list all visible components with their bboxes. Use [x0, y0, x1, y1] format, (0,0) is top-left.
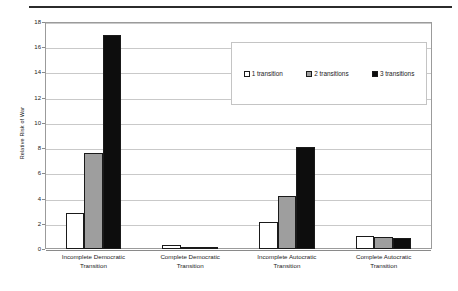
legend-item-2: 2 transitions	[306, 70, 348, 77]
y-tick-label-18: 18	[15, 19, 41, 25]
y-tick-label-14: 14	[15, 69, 41, 75]
gridline-8	[46, 149, 431, 150]
white-square-icon	[244, 71, 250, 77]
chart-legend: 1 transition2 transitions3 transitions	[231, 42, 427, 105]
x-axis-label-1: Incomplete DemocraticTransition	[45, 253, 142, 287]
x-axis-label-1-line-1: Incomplete Democratic	[45, 253, 142, 262]
x-axis-label-3: Incomplete AutocraticTransition	[239, 253, 336, 287]
x-axis-label-4: Complete AutocraticTransition	[335, 253, 432, 287]
y-tick-label-12: 12	[15, 95, 41, 101]
x-axis-label-2: Complete DemocraticTransition	[142, 253, 239, 287]
gridline-4	[46, 200, 431, 201]
legend-label-3: 3 transitions	[380, 70, 414, 77]
bar-chart-figure: Relative Risk of War 024681012141618 1 t…	[0, 0, 458, 291]
legend-item-3: 3 transitions	[372, 70, 414, 77]
y-tick-label-0: 0	[15, 246, 41, 252]
x-axis-label-3-line-1: Incomplete Autocratic	[239, 253, 336, 262]
gridline-10	[46, 124, 431, 125]
y-axis-ticks: 024681012141618	[13, 22, 41, 249]
x-axis-label-2-line-2: Transition	[142, 262, 239, 271]
gridline-2	[46, 225, 431, 226]
y-tick-label-6: 6	[15, 170, 41, 176]
y-tick-label-16: 16	[15, 44, 41, 50]
y-tick-mark-0	[42, 249, 45, 250]
legend-label-2: 2 transitions	[314, 70, 348, 77]
gridline-6	[46, 174, 431, 175]
y-tick-label-2: 2	[15, 221, 41, 227]
legend-label-1: 1 transition	[252, 70, 283, 77]
top-horizontal-rule	[29, 6, 452, 8]
x-axis-label-4-line-1: Complete Autocratic	[335, 253, 432, 262]
gridline-0	[46, 250, 431, 251]
x-axis-label-3-line-2: Transition	[239, 262, 336, 271]
x-axis-label-4-line-2: Transition	[335, 262, 432, 271]
y-tick-label-10: 10	[15, 120, 41, 126]
y-tick-label-4: 4	[15, 196, 41, 202]
y-tick-label-8: 8	[15, 145, 41, 151]
gridline-18	[46, 23, 431, 24]
x-axis-category-labels: Incomplete DemocraticTransitionComplete …	[45, 253, 432, 287]
legend-item-1: 1 transition	[244, 70, 283, 77]
black-square-icon	[372, 71, 378, 77]
x-axis-label-1-line-2: Transition	[45, 262, 142, 271]
gray-square-icon	[306, 71, 312, 77]
x-axis-label-2-line-1: Complete Democratic	[142, 253, 239, 262]
